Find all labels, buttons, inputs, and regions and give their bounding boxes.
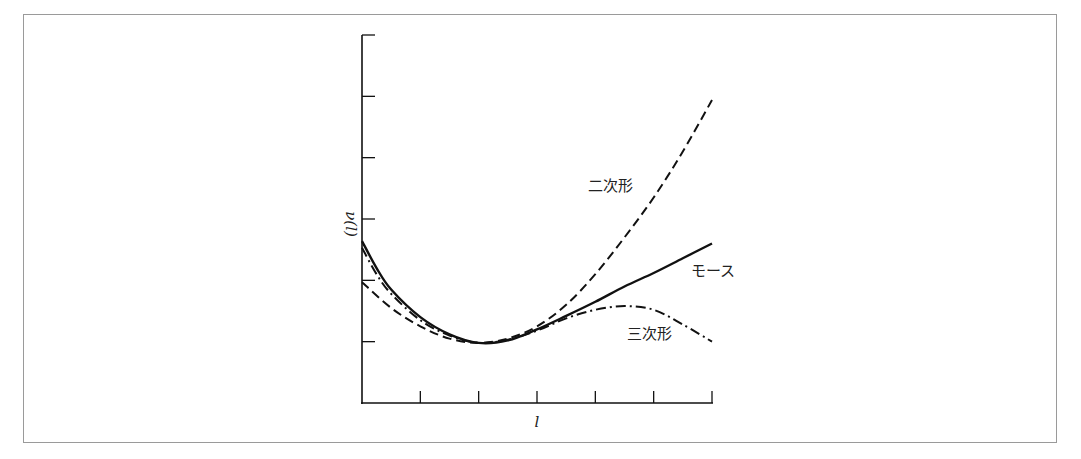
x-axis-label: l [535, 413, 540, 431]
label-quadratic: 二次形 [588, 177, 633, 195]
y-axis-label: ν(l) [342, 211, 360, 237]
series-quadratic [362, 100, 712, 343]
x-ticks [420, 391, 712, 403]
axes [361, 35, 713, 404]
curves [362, 100, 712, 343]
potential-energy-chart: l ν(l) 二次形 モース 三次形 [0, 0, 1081, 459]
y-ticks [362, 35, 375, 342]
label-morse: モース [691, 262, 735, 280]
label-cubic: 三次形 [627, 325, 672, 343]
